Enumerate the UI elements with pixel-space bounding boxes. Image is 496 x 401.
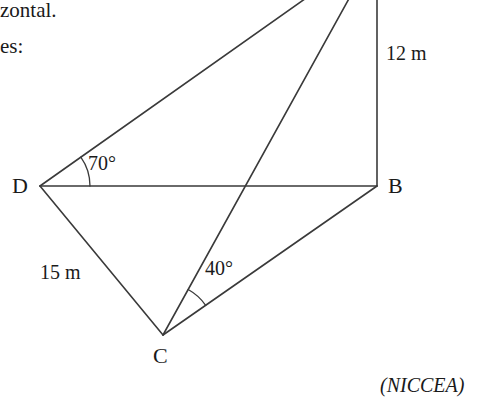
- prose-line-2: es:: [0, 36, 23, 57]
- measure-label-12m: 12 m: [386, 43, 427, 63]
- vertex-label-C: C: [153, 345, 168, 367]
- edge-C-A: [163, 0, 377, 335]
- vertex-label-B: B: [388, 175, 403, 197]
- angle-arc-angle-C: [188, 289, 206, 305]
- attribution-label: (NICCEA): [380, 375, 464, 395]
- figure-page: zontal. es: D B C 12 m 15 m 70° 40° (NIC…: [0, 0, 496, 401]
- vertex-label-D: D: [12, 175, 28, 197]
- prose-line-1: zontal.: [0, 0, 57, 21]
- angle-arcs: [81, 157, 206, 305]
- angle-label-40: 40°: [205, 258, 233, 278]
- measure-label-15m: 15 m: [40, 262, 81, 282]
- edge-C-B: [163, 186, 377, 335]
- angle-label-70: 70°: [88, 153, 116, 173]
